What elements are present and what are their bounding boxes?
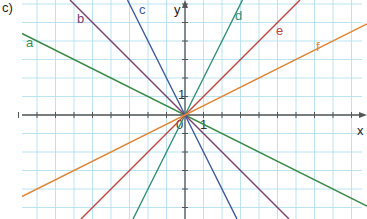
- grid-lines: [22, 0, 362, 219]
- line-label-f: f: [316, 39, 320, 54]
- line-c: [128, 0, 238, 219]
- graph-figure: yx011 abcdef c): [0, 0, 367, 219]
- line-label-e: e: [276, 23, 283, 38]
- line-label-c: c: [139, 2, 146, 17]
- x-axis-arrow-icon: [359, 112, 367, 118]
- line-label-d: d: [235, 8, 242, 23]
- part-label: c): [2, 0, 13, 15]
- line-d: [133, 0, 243, 219]
- line-labels: abcdef: [26, 2, 320, 54]
- line-e: [81, 0, 300, 219]
- line-label-b: b: [77, 11, 84, 26]
- coordinate-plane: yx011 abcdef: [0, 0, 367, 219]
- x-axis-label: x: [357, 123, 364, 138]
- line-b: [70, 0, 289, 219]
- line-label-a: a: [26, 35, 34, 50]
- y-unit-label: 1: [178, 87, 185, 102]
- y-axis-label: y: [174, 2, 181, 17]
